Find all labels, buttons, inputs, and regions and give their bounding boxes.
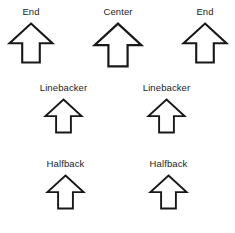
- halfback-row: HalfbackHalfback: [0, 0, 235, 233]
- player-right-halfback: Halfback: [149, 158, 188, 210]
- formation-diagram: EndCenterEndLinebackerLinebackerHalfback…: [0, 0, 235, 233]
- up-arrow-outline-icon: [149, 174, 188, 210]
- up-arrow-outline-icon: [46, 174, 85, 210]
- player-left-halfback: Halfback: [46, 158, 85, 210]
- player-label: Halfback: [150, 158, 188, 170]
- player-label: Halfback: [47, 158, 85, 170]
